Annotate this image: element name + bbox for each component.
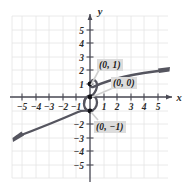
x-tick-label: −2	[58, 102, 69, 112]
x-tick-label: −5	[17, 102, 28, 112]
x-axis-arrow-icon	[166, 95, 172, 100]
x-axis-label: x	[175, 92, 181, 103]
y-axis-label: y	[96, 6, 103, 17]
y-tick-label: −4	[73, 147, 84, 157]
y-tick-labels: 5 4 3 2 1 −2 −3 −4 −5	[73, 26, 84, 171]
x-tick-label: 5	[156, 102, 161, 112]
y-axis-arrow-icon	[88, 14, 93, 20]
x-tick-label: 2	[114, 102, 120, 112]
marked-point-0-0	[88, 95, 93, 100]
x-tick-label: 3	[128, 102, 134, 112]
y-tick-label: 1	[79, 80, 84, 90]
y-tick-label: −3	[73, 134, 84, 144]
y-tick-label: 2	[78, 66, 84, 76]
y-tick-label: −5	[73, 161, 84, 171]
point-label-0-1: (0, 1)	[97, 59, 123, 71]
x-tick-label: 1	[102, 102, 107, 112]
x-tick-label: 4	[141, 102, 147, 112]
point-label-0-0: (0, 0)	[111, 77, 137, 89]
x-tick-label: −4	[31, 102, 42, 112]
curve-right-arrow-icon	[158, 67, 170, 73]
point-label-0-minus-1: (0, −1)	[94, 121, 126, 133]
graph-canvas: −5 −4 −3 −2 −1 1 2 3 4 5 5 4 3 2 1 −2 −3…	[0, 0, 190, 190]
x-tick-label: −3	[44, 102, 55, 112]
y-tick-label: 4	[78, 39, 84, 49]
y-tick-label: 5	[79, 26, 84, 36]
y-tick-label: 3	[78, 53, 84, 63]
coordinate-plane-figure: −5 −4 −3 −2 −1 1 2 3 4 5 5 4 3 2 1 −2 −3…	[0, 0, 190, 190]
y-tick-label: −2	[73, 120, 84, 130]
